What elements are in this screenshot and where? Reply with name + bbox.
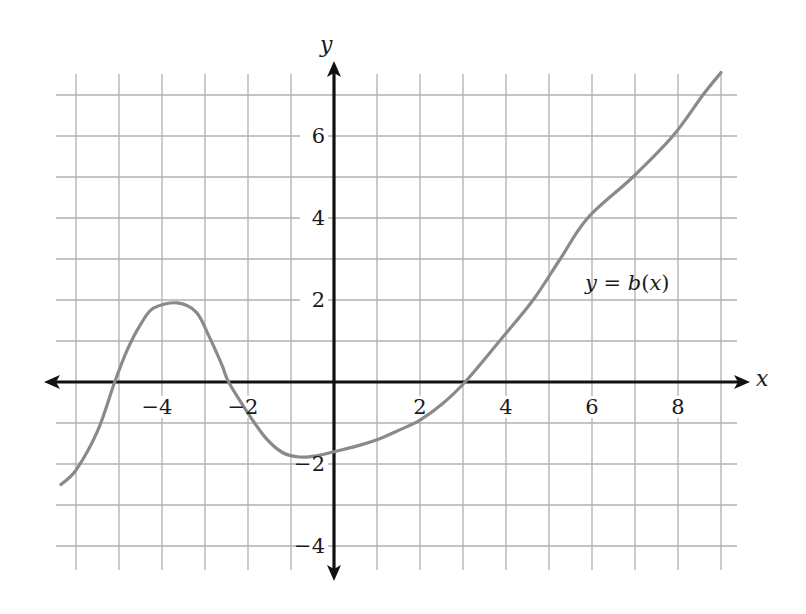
x-tick-label: 6 <box>585 395 598 419</box>
y-tick-label: 2 <box>312 288 325 312</box>
x-tick-label: 8 <box>671 395 684 419</box>
y-tick-label: 6 <box>312 124 325 148</box>
axes <box>44 61 750 581</box>
tick-label-backgrounds <box>141 125 694 559</box>
y-tick-label: −4 <box>294 534 325 558</box>
function-graph: −4−22468−4−2246 x y y = b(x) <box>0 0 806 614</box>
y-axis-label: y <box>319 32 333 57</box>
x-tick-label: −4 <box>142 395 173 419</box>
grid <box>56 74 737 570</box>
x-tick-label: −2 <box>228 395 259 419</box>
y-tick-label: −2 <box>294 452 325 476</box>
x-tick-label: 4 <box>499 395 512 419</box>
function-label: y = b(x) <box>584 271 670 295</box>
y-tick-label: 4 <box>312 206 325 230</box>
x-tick-label: 2 <box>413 395 426 419</box>
x-axis-label: x <box>756 366 769 391</box>
